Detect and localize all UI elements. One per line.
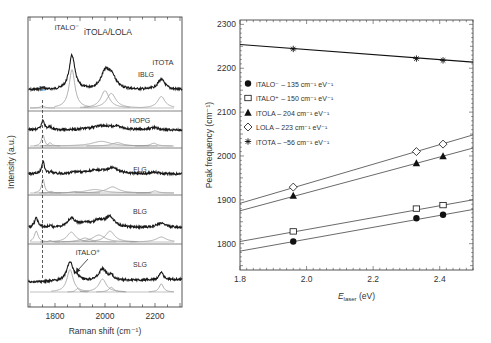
x-axis-label: Elaser (eV)	[338, 291, 375, 302]
x-tick-label: 2.4	[434, 274, 446, 284]
y-tick-label: 1800	[217, 239, 236, 249]
asterisk-marker	[440, 57, 446, 63]
fit-line	[240, 209, 473, 251]
annotation-itola-lola: iTOLA/LOLA	[84, 27, 132, 37]
annotation-arrow	[78, 259, 88, 270]
fit-component-curve	[130, 237, 175, 242]
annotation-itota: iTOTA	[153, 58, 174, 67]
y-axis-label: Peak frequency (cm⁻¹)	[204, 102, 214, 188]
annotation-italo-plus: iTALO⁺	[76, 248, 101, 257]
fit-line	[240, 148, 473, 211]
asterisk-marker	[290, 46, 296, 52]
open-square-marker	[290, 229, 296, 234]
open-square-marker	[413, 206, 419, 211]
y-tick-label: 2200	[217, 63, 236, 73]
legend-entry-label: iTOTA – −56 cm⁻¹ eV⁻¹	[256, 139, 330, 146]
x-tick-label: 1.8	[234, 274, 246, 284]
open-diamond-marker	[289, 183, 297, 191]
fit-component-curve	[136, 191, 174, 193]
asterisk-marker	[413, 55, 419, 61]
fit-component-curve	[34, 135, 52, 146]
sample-label-iblg: IBLG	[138, 71, 154, 78]
fit-component-curve	[34, 179, 52, 192]
legend-entry-label: iTALO⁻ – 135 cm⁻¹ eV⁻¹	[256, 81, 334, 88]
fit-component-curve	[45, 141, 158, 145]
y-tick-label: 2300	[217, 19, 236, 29]
x-axis-label: Raman shift (cm⁻¹)	[69, 326, 142, 336]
x-tick-label: 2.0	[301, 274, 313, 284]
x-tick-label: 2200	[146, 311, 165, 321]
raman-figure: 180020002200Raman shift (cm⁻¹)Intensity …	[0, 0, 491, 343]
spectrum-curve	[29, 161, 182, 175]
legend-entry-label: iTALO⁺ – 150 cm⁻¹ eV⁻¹	[256, 95, 334, 102]
x-tick-label: 1800	[46, 311, 65, 321]
sample-label-slg: SLG	[133, 261, 147, 268]
y-tick-label: 2000	[217, 151, 236, 161]
spectrum-curve	[29, 120, 182, 131]
annotation-italo-minus: iTALO⁻	[55, 23, 80, 32]
asterisk-marker	[245, 138, 251, 144]
spectrum-curve	[29, 215, 182, 228]
filled-circle-marker	[440, 212, 446, 218]
legend: iTALO⁻ – 135 cm⁻¹ eV⁻¹iTALO⁺ – 150 cm⁻¹ …	[244, 80, 334, 145]
filled-triangle-marker	[290, 192, 297, 199]
fit-component-curve	[55, 70, 90, 107]
fit-component-curve	[149, 284, 174, 292]
sample-label-hopg: HOPG	[130, 117, 151, 124]
legend-entry-label: iTOLA – 204 cm⁻¹ eV⁻¹	[256, 110, 330, 117]
fit-line	[240, 45, 473, 63]
fit-component-curve	[30, 231, 48, 241]
filled-circle-marker	[290, 238, 296, 244]
raman-spectra-panel: 180020002200Raman shift (cm⁻¹)Intensity …	[6, 17, 182, 336]
y-axis-label: Intensity (a.u.)	[6, 135, 16, 189]
peak-frequency-panel: 1.82.02.22.4180019002000210022002300Elas…	[204, 19, 473, 302]
y-tick-label: 1900	[217, 195, 236, 205]
sample-label-flg: FLG	[133, 166, 147, 173]
sample-label-blg: BLG	[133, 208, 147, 215]
open-diamond-marker	[439, 140, 447, 148]
open-diamond-marker	[244, 123, 252, 131]
x-tick-label: 2000	[96, 311, 115, 321]
x-tick-label: 2.2	[367, 274, 379, 284]
fit-component-curve	[46, 232, 96, 242]
filled-circle-marker	[245, 80, 251, 86]
open-diamond-marker	[412, 148, 420, 156]
fit-line	[240, 200, 473, 242]
fit-component-curve	[139, 97, 175, 108]
spectrum-curve	[29, 262, 182, 283]
open-square-marker	[245, 95, 251, 100]
annotation-m: M	[39, 85, 45, 92]
filled-circle-marker	[413, 215, 419, 221]
filled-triangle-marker	[244, 109, 251, 116]
fit-component-curve	[84, 93, 139, 107]
y-tick-label: 2100	[217, 107, 236, 117]
legend-entry-label: LOLA – 223 cm⁻¹ eV⁻¹	[256, 124, 328, 131]
open-square-marker	[440, 202, 446, 207]
